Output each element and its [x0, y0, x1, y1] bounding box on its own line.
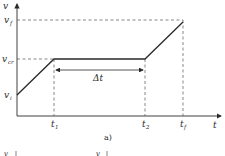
y-tick-vf: v f: [4, 15, 13, 27]
next-figure-partial-right: v: [96, 150, 107, 156]
delta-t-label: Δt: [92, 73, 103, 83]
velocity-curve: [17, 22, 183, 95]
x-tick-t1-sub: 1: [55, 124, 59, 130]
x-tick-t1: t 1: [51, 119, 59, 130]
x-tick-t2: t 2: [142, 119, 150, 130]
x-tick-tf: t f: [180, 119, 187, 131]
partial-v-label-right: v: [96, 150, 100, 156]
x-tick-tf-sub: f: [183, 124, 187, 131]
y-tick-vi-base: v: [4, 90, 9, 100]
x-tick-t2-sub: 2: [145, 124, 150, 130]
y-axis-label: v: [3, 1, 8, 11]
guide-lines: [17, 20, 183, 116]
partial-v-label-left: v: [4, 150, 8, 156]
y-tick-vi-sub: i: [10, 95, 12, 101]
y-tick-vcr: v cr: [2, 54, 14, 65]
figure-caption: a): [104, 133, 112, 142]
y-tick-vcr-base: v: [2, 54, 7, 64]
velocity-time-diagram: Δt v t v f v cr v i t 1 t 2 t f a) v v: [0, 0, 225, 156]
x-axis-label: t: [213, 120, 217, 130]
axes: [17, 4, 221, 116]
y-tick-vi: v i: [4, 90, 12, 101]
y-tick-vf-base: v: [4, 15, 9, 25]
y-tick-vcr-sub: cr: [8, 59, 14, 65]
y-tick-vf-sub: f: [9, 20, 13, 27]
next-figure-partial-left: v: [4, 150, 16, 156]
